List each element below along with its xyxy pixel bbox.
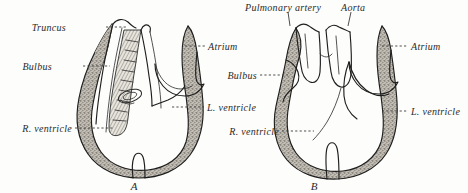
label-atrium-b: Atrium <box>410 41 441 52</box>
panel-a <box>60 14 230 193</box>
label-atrium-a: Atrium <box>207 41 238 52</box>
leader-pulmonary-artery <box>288 12 290 26</box>
label-truncus: Truncus <box>32 22 66 33</box>
panel-caption-a: A <box>130 180 138 192</box>
anatomical-figure: Truncus Bulbus R. ventricle Atrium L. ve… <box>0 0 468 193</box>
label-l-ventricle-b: L. ventricle <box>410 106 460 117</box>
label-r-ventricle-b: R. ventricle <box>228 126 279 137</box>
panel-a-bulbus-limb <box>141 30 152 106</box>
panel-b-vessel-crossing <box>320 54 332 57</box>
label-pulmonary-artery: Pulmonary artery <box>244 2 321 13</box>
label-aorta: Aorta <box>340 2 365 13</box>
label-l-ventricle-a: L. ventricle <box>206 102 256 113</box>
label-r-ventricle-a: R. ventricle <box>21 123 72 134</box>
leader-aorta <box>348 12 351 26</box>
panel-a-spiral-septum <box>109 30 141 136</box>
figure-canvas: Truncus Bulbus R. ventricle Atrium L. ve… <box>0 0 468 193</box>
label-bulbus-a: Bulbus <box>22 61 52 72</box>
panel-a-bulbus-limb-top <box>141 25 150 32</box>
panel-b-septum-trace <box>313 88 341 140</box>
panel-b <box>258 16 433 193</box>
label-bulbus-b: Bulbus <box>227 70 257 81</box>
panel-caption-b: B <box>311 180 318 192</box>
panel-b-inner-contour <box>287 26 383 171</box>
